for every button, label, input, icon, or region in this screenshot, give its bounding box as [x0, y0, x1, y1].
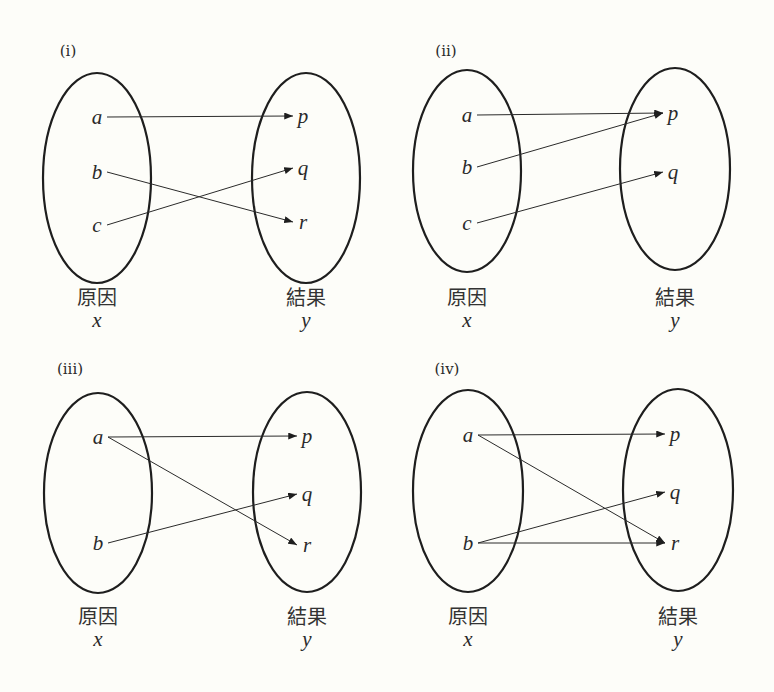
cause-element-c: c: [462, 211, 472, 235]
arrow-b-to-q: [108, 494, 297, 543]
cause-variable: x: [461, 308, 472, 332]
cause-element-b: b: [92, 160, 103, 184]
cause-element-c: c: [92, 213, 102, 237]
arrow-a-to-p: [478, 434, 665, 435]
effect-element-p: p: [666, 101, 679, 125]
panel-1: (i)abcpqr原因x結果y: [43, 42, 360, 332]
cause-set-ellipse: [413, 390, 523, 592]
arrow-a-to-p: [107, 116, 293, 117]
arrow-b-to-q: [478, 492, 665, 543]
cause-variable: x: [91, 308, 102, 332]
effect-element-q: q: [668, 160, 679, 184]
cause-element-a: a: [463, 423, 474, 447]
panel-2: (ii)abcpq原因x結果y: [413, 42, 730, 332]
cause-caption: 原因: [77, 286, 117, 310]
panel-label: (iii): [57, 360, 83, 378]
effect-caption: 結果: [286, 286, 326, 310]
arrow-a-to-p: [108, 436, 297, 437]
effect-element-q: q: [298, 156, 309, 180]
arrow-a-to-r: [108, 437, 297, 545]
panel-label: (i): [60, 42, 77, 60]
effect-element-p: p: [296, 104, 309, 128]
causal-mapping-diagrams: (i)abcpqr原因x結果y(ii)abcpq原因x結果y(iii)abpqr…: [0, 0, 774, 692]
cause-element-b: b: [93, 531, 104, 555]
arrow-c-to-q: [107, 168, 293, 225]
effect-variable: y: [668, 308, 680, 332]
effect-caption: 結果: [287, 605, 327, 629]
cause-element-b: b: [462, 155, 473, 179]
cause-element-b: b: [463, 531, 474, 555]
arrow-a-to-r: [478, 435, 665, 543]
cause-element-a: a: [93, 425, 104, 449]
cause-set-ellipse: [44, 393, 152, 593]
effect-caption: 結果: [658, 605, 698, 629]
effect-element-r: r: [303, 533, 312, 557]
effect-element-r: r: [671, 531, 680, 555]
panel-3: (iii)abpqr原因x結果y: [44, 360, 361, 651]
cause-variable: x: [462, 627, 473, 651]
panels-container: (i)abcpqr原因x結果y(ii)abcpq原因x結果y(iii)abpqr…: [43, 42, 733, 651]
panel-label: (ii): [435, 42, 456, 60]
effect-caption: 結果: [655, 286, 695, 310]
effect-element-q: q: [302, 482, 313, 506]
cause-caption: 原因: [448, 605, 488, 629]
effect-variable: y: [300, 627, 312, 651]
cause-element-a: a: [92, 105, 103, 129]
effect-element-q: q: [670, 480, 681, 504]
cause-caption: 原因: [447, 286, 487, 310]
effect-variable: y: [299, 308, 311, 332]
panel-4: (iv)abpqr原因x結果y: [413, 360, 733, 651]
panel-label: (iv): [435, 360, 460, 378]
arrow-a-to-p: [477, 113, 663, 115]
diagram-canvas: (i)abcpqr原因x結果y(ii)abcpq原因x結果y(iii)abpqr…: [0, 0, 774, 692]
cause-variable: x: [92, 627, 103, 651]
effect-element-r: r: [299, 210, 308, 234]
effect-variable: y: [671, 627, 683, 651]
cause-element-a: a: [462, 103, 473, 127]
effect-element-p: p: [668, 422, 681, 446]
arrow-b-to-p: [477, 113, 663, 167]
effect-element-p: p: [300, 424, 313, 448]
arrow-c-to-q: [477, 172, 663, 223]
cause-caption: 原因: [78, 605, 118, 629]
